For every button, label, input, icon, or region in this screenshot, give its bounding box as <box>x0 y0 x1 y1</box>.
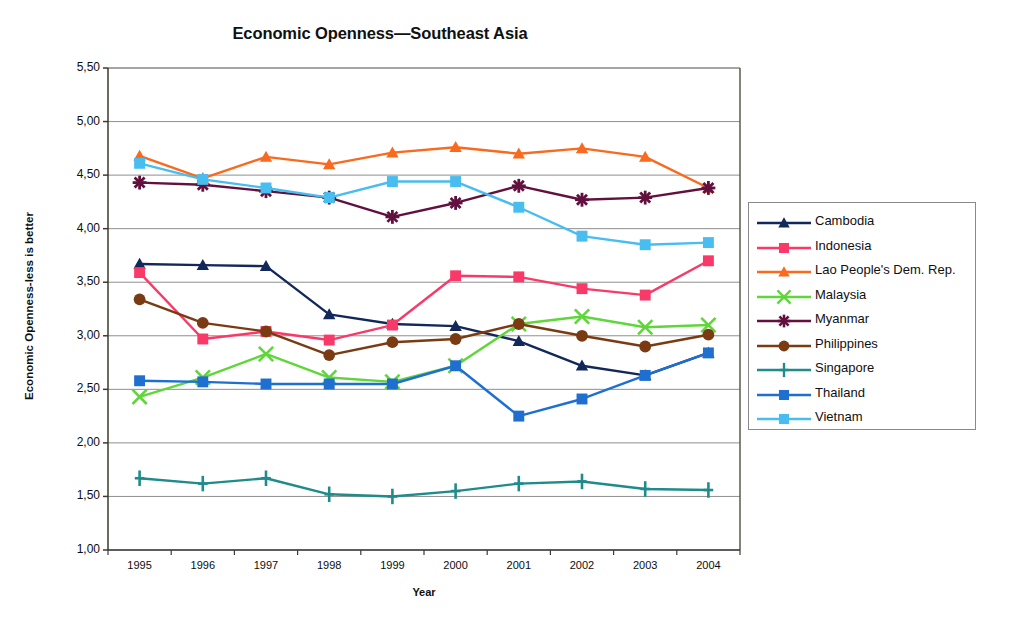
data-point-marker <box>197 317 209 329</box>
data-point-marker <box>577 394 588 405</box>
data-point-marker <box>703 329 715 341</box>
data-point-marker <box>640 481 650 497</box>
legend-item-philippines[interactable]: Philippines <box>749 334 977 358</box>
data-point-marker <box>513 411 524 422</box>
series-thailand <box>134 347 714 421</box>
data-point-marker <box>388 489 398 505</box>
legend-item-cambodia[interactable]: Cambodia <box>749 211 977 235</box>
data-point-marker <box>323 349 335 361</box>
data-point-marker <box>779 389 789 399</box>
legend-swatch <box>755 236 813 260</box>
legend-item-myanmar[interactable]: Myanmar <box>749 309 977 333</box>
data-point-marker <box>703 347 714 358</box>
legend-label: Myanmar <box>815 311 869 326</box>
data-point-marker <box>779 414 789 424</box>
y-tick-label: 3,00 <box>54 328 100 342</box>
y-tick-label: 5,00 <box>54 114 100 128</box>
data-point-marker <box>134 267 145 278</box>
legend-label: Lao People's Dem. Rep. <box>815 262 956 277</box>
data-point-marker <box>640 239 651 250</box>
series-lao-people-s-dem-rep <box>133 141 714 193</box>
series-line <box>140 353 709 416</box>
data-point-marker <box>134 293 146 305</box>
legend-label: Philippines <box>815 336 878 351</box>
x-tick-label: 1999 <box>362 559 422 571</box>
y-tick-label: 4,00 <box>54 221 100 235</box>
y-tick-label: 2,00 <box>54 435 100 449</box>
legend-label: Indonesia <box>815 238 871 253</box>
legend-item-lao-people-s-dem-rep[interactable]: Lao People's Dem. Rep. <box>749 260 977 284</box>
data-point-marker <box>385 210 399 224</box>
data-point-marker <box>324 335 335 346</box>
legend-swatch <box>755 211 813 235</box>
x-tick-label: 2001 <box>489 559 549 571</box>
legend-item-vietnam[interactable]: Vietnam <box>749 407 977 431</box>
chart-legend: CambodiaIndonesiaLao People's Dem. Rep.M… <box>748 202 976 430</box>
data-point-marker <box>780 363 789 377</box>
data-point-marker <box>387 336 399 348</box>
data-point-marker <box>261 470 271 486</box>
legend-label: Thailand <box>815 385 865 400</box>
x-tick-label: 1998 <box>299 559 359 571</box>
data-point-marker <box>640 290 651 301</box>
data-point-marker <box>261 379 272 390</box>
data-point-marker <box>324 487 334 503</box>
data-point-marker <box>513 202 524 213</box>
data-point-marker <box>704 482 714 498</box>
legend-label: Malaysia <box>815 287 866 302</box>
data-point-marker <box>133 176 147 190</box>
x-tick-label: 2002 <box>552 559 612 571</box>
data-point-marker <box>514 476 524 492</box>
data-point-marker <box>197 376 208 387</box>
data-point-marker <box>575 193 589 207</box>
data-point-marker <box>135 470 145 486</box>
y-tick-label: 3,50 <box>54 274 100 288</box>
data-point-marker <box>324 379 335 390</box>
data-point-marker <box>387 320 398 331</box>
data-point-marker <box>260 326 272 338</box>
series-line <box>140 299 709 355</box>
x-tick-label: 1997 <box>236 559 296 571</box>
data-point-marker <box>450 270 461 281</box>
data-point-marker <box>387 176 398 187</box>
y-tick-label: 1,00 <box>54 542 100 556</box>
chart-container: Economic Openness—Southeast Asia Economi… <box>0 0 1022 619</box>
legend-item-indonesia[interactable]: Indonesia <box>749 236 977 260</box>
data-point-marker <box>387 379 398 390</box>
legend-swatch <box>755 285 813 309</box>
legend-swatch <box>755 407 813 431</box>
x-tick-label: 2003 <box>615 559 675 571</box>
series-cambodia <box>133 258 714 380</box>
data-point-marker <box>449 196 463 210</box>
data-point-marker <box>577 474 587 490</box>
legend-item-thailand[interactable]: Thailand <box>749 383 977 407</box>
data-point-marker <box>576 330 588 342</box>
data-point-marker <box>132 390 146 404</box>
y-tick-label: 2,50 <box>54 381 100 395</box>
data-point-marker <box>324 192 335 203</box>
data-point-marker <box>779 340 790 351</box>
data-point-marker <box>513 271 524 282</box>
legend-swatch <box>755 334 813 358</box>
series-singapore <box>135 470 713 504</box>
y-tick-label: 1,50 <box>54 488 100 502</box>
legend-item-singapore[interactable]: Singapore <box>749 358 977 382</box>
y-tick-label: 5,50 <box>54 60 100 74</box>
legend-swatch <box>755 309 813 333</box>
series-indonesia <box>134 255 714 345</box>
legend-swatch <box>755 358 813 382</box>
x-tick-label: 2000 <box>426 559 486 571</box>
data-point-marker <box>701 181 715 195</box>
data-point-marker <box>779 242 789 252</box>
series-line <box>140 183 709 217</box>
data-point-marker <box>638 191 652 205</box>
x-tick-label: 1996 <box>173 559 233 571</box>
legend-swatch <box>755 260 813 284</box>
data-point-marker <box>450 360 461 371</box>
legend-item-malaysia[interactable]: Malaysia <box>749 285 977 309</box>
data-point-marker <box>261 183 272 194</box>
data-point-marker <box>703 237 714 248</box>
legend-label: Cambodia <box>815 213 874 228</box>
data-point-marker <box>198 476 208 492</box>
legend-label: Singapore <box>815 360 874 375</box>
